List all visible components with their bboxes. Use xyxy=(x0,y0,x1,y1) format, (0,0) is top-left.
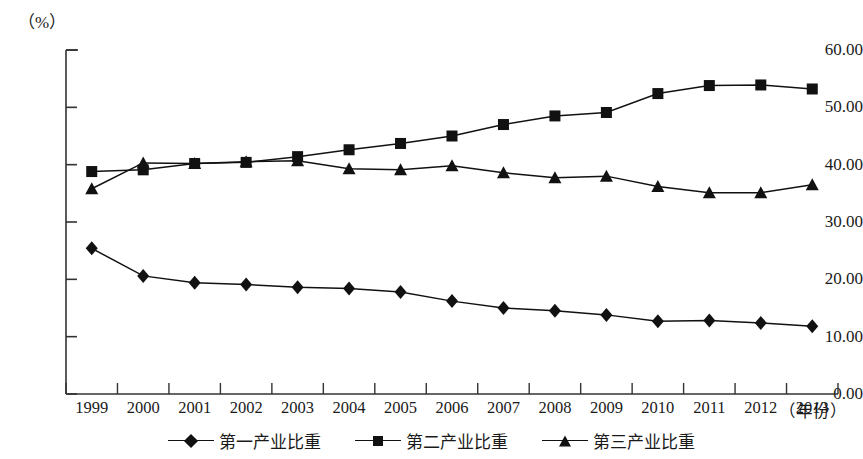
y-axis-ticks xyxy=(66,50,77,394)
x-axis-tick-label: 2002 xyxy=(230,398,263,418)
legend-label: 第三产业比重 xyxy=(591,428,695,453)
triangle-marker xyxy=(806,178,819,190)
triangle-marker xyxy=(559,435,571,446)
data-series-layer xyxy=(85,79,819,333)
diamond-marker xyxy=(497,301,509,315)
diamond-marker xyxy=(549,304,561,318)
legend-item-1[interactable]: 第一产业比重 xyxy=(168,428,321,453)
square-marker xyxy=(755,79,766,90)
square-marker xyxy=(498,119,509,130)
legend-item-3[interactable]: 第三产业比重 xyxy=(542,428,695,453)
legend-swatch xyxy=(168,433,214,449)
diamond-marker xyxy=(703,314,715,328)
square-marker xyxy=(601,107,612,118)
triangle-marker xyxy=(85,182,98,194)
legend-swatch xyxy=(542,433,588,449)
square-marker xyxy=(86,166,97,177)
x-axis-tick-label: 2003 xyxy=(281,398,314,418)
x-axis-tick-label: 2004 xyxy=(333,398,366,418)
x-axis-title: （年份） xyxy=(779,398,847,422)
diamond-marker xyxy=(652,314,664,328)
axis-lines xyxy=(66,50,838,394)
square-marker xyxy=(395,138,406,149)
triangle-marker xyxy=(446,159,459,171)
square-marker xyxy=(447,131,458,142)
diamond-marker xyxy=(395,285,407,299)
x-axis-ticks xyxy=(66,383,838,394)
x-axis-tick-label: 2012 xyxy=(744,398,777,418)
diamond-marker xyxy=(137,269,149,283)
diamond-marker xyxy=(184,433,198,447)
x-axis-tick-label: 2007 xyxy=(487,398,520,418)
chart-legend: 第一产业比重第二产业比重第三产业比重 xyxy=(0,428,863,453)
square-marker xyxy=(373,436,383,446)
square-marker xyxy=(704,80,715,91)
legend-swatch xyxy=(355,433,401,449)
x-axis-tick-label: 2001 xyxy=(178,398,211,418)
legend-label: 第二产业比重 xyxy=(404,428,508,453)
legend-item-2[interactable]: 第二产业比重 xyxy=(355,428,508,453)
diamond-marker xyxy=(446,294,458,308)
x-axis-tick-label: 2010 xyxy=(641,398,674,418)
diamond-marker xyxy=(343,282,355,296)
series-line xyxy=(92,248,813,326)
square-marker xyxy=(807,83,818,94)
diamond-marker xyxy=(240,277,252,291)
diamond-marker xyxy=(806,319,818,333)
square-marker xyxy=(549,110,560,121)
diamond-marker xyxy=(86,241,98,255)
x-axis-tick-label: 2009 xyxy=(590,398,623,418)
series-3 xyxy=(85,154,819,198)
legend-label: 第一产业比重 xyxy=(217,428,321,453)
diamond-marker xyxy=(189,276,201,290)
diamond-marker xyxy=(755,316,767,330)
x-axis-tick-label: 1999 xyxy=(75,398,108,418)
plot-area xyxy=(0,0,863,459)
x-axis-tick-label: 2006 xyxy=(436,398,469,418)
industry-share-line-chart: （%） 0.0010.0020.0030.0040.0050.0060.00 1… xyxy=(0,0,863,459)
diamond-marker xyxy=(600,308,612,322)
diamond-marker xyxy=(292,280,304,294)
x-axis-tick-label: 2005 xyxy=(384,398,417,418)
square-marker xyxy=(652,88,663,99)
series-1 xyxy=(86,241,819,333)
x-axis-tick-label: 2008 xyxy=(538,398,571,418)
x-axis-tick-label: 2011 xyxy=(693,398,725,418)
square-marker xyxy=(344,144,355,155)
x-axis-tick-label: 2000 xyxy=(127,398,160,418)
